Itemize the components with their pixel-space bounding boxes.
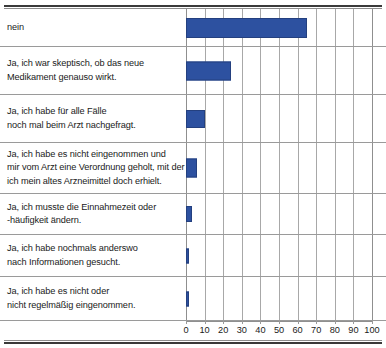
- x-axis-line: [186, 321, 373, 322]
- chart-rows: neinJa, ich war skeptisch, ob das neueMe…: [0, 9, 386, 321]
- x-tick-label: 60: [292, 325, 302, 335]
- category-label: Ja, ich musste die Einnahmezeit oder-häu…: [7, 194, 179, 234]
- chart-row: nein: [0, 9, 386, 47]
- category-label: Ja, ich habe für alle Fällenoch mal beim…: [7, 95, 179, 142]
- bar: [186, 61, 231, 80]
- x-tick-label: 20: [218, 325, 228, 335]
- bottom-rule-thin: [4, 340, 382, 341]
- x-tick-label: 90: [348, 325, 358, 335]
- chart-row: Ja, ich habe für alle Fällenoch mal beim…: [0, 95, 386, 143]
- x-tick-label: 70: [311, 325, 321, 335]
- bar-chart: neinJa, ich war skeptisch, ob das neueMe…: [0, 0, 386, 348]
- chart-row: Ja, ich musste die Einnahmezeit oder-häu…: [0, 194, 386, 235]
- bar: [186, 291, 189, 306]
- x-tick-label: 0: [183, 325, 188, 335]
- x-tick-label: 30: [237, 325, 247, 335]
- category-label: Ja, ich war skeptisch, ob das neueMedika…: [7, 47, 179, 94]
- bar: [186, 248, 189, 263]
- x-tick-label: 10: [199, 325, 209, 335]
- x-tick-label: 100: [364, 325, 379, 335]
- category-label: Ja, ich habe es nicht eingenommen undmir…: [7, 143, 179, 193]
- chart-row: Ja, ich habe es nicht odernicht regelmäß…: [0, 277, 386, 321]
- chart-row: Ja, ich habe nochmals anderswonach Infor…: [0, 235, 386, 277]
- top-rule: [4, 5, 382, 7]
- bar: [186, 159, 197, 178]
- category-label: Ja, ich habe nochmals anderswonach Infor…: [7, 235, 179, 276]
- x-tick-label: 40: [255, 325, 265, 335]
- bottom-rule: [4, 342, 382, 344]
- chart-row: Ja, ich war skeptisch, ob das neueMedika…: [0, 47, 386, 95]
- chart-row: Ja, ich habe es nicht eingenommen undmir…: [0, 143, 386, 194]
- category-label: Ja, ich habe es nicht odernicht regelmäß…: [7, 277, 179, 320]
- bar: [186, 206, 192, 222]
- bar: [186, 18, 307, 38]
- x-tick-label: 50: [274, 325, 284, 335]
- x-tick-label: 80: [330, 325, 340, 335]
- bar: [186, 110, 205, 128]
- category-label: nein: [7, 9, 179, 46]
